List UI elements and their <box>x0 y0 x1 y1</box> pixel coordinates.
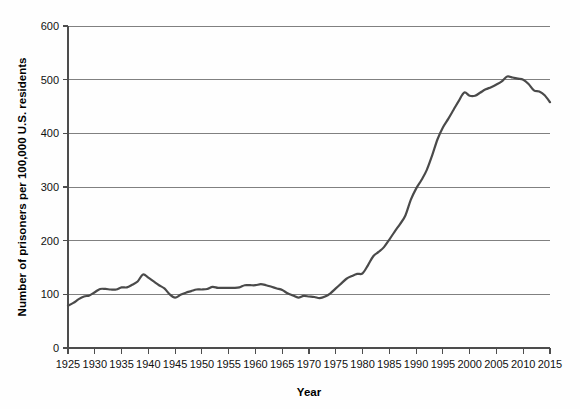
x-tick-label-1950: 1950 <box>190 358 214 370</box>
y-tick-label-200: 200 <box>41 235 59 247</box>
y-tick-label-0: 0 <box>53 342 59 354</box>
data-series-line <box>68 76 550 305</box>
x-tick-label-2015: 2015 <box>538 358 562 370</box>
x-tick-label-2000: 2000 <box>457 358 481 370</box>
x-tick-label-1960: 1960 <box>243 358 267 370</box>
gridlines <box>68 26 550 294</box>
x-tick-label-1955: 1955 <box>216 358 240 370</box>
x-tick-label-1980: 1980 <box>350 358 374 370</box>
y-tick-label-100: 100 <box>41 288 59 300</box>
x-tick-label-1995: 1995 <box>431 358 455 370</box>
x-tick-label-1970: 1970 <box>297 358 321 370</box>
line-chart: 0100200300400500600 19251930193519401945… <box>0 0 580 409</box>
x-tick-label-2005: 2005 <box>484 358 508 370</box>
y-tick-label-600: 600 <box>41 20 59 32</box>
x-tick-label-1940: 1940 <box>136 358 160 370</box>
y-axis-title: Number of prisoners per 100,000 U.S. res… <box>16 58 28 317</box>
x-tick-label-2010: 2010 <box>511 358 535 370</box>
y-tick-label-300: 300 <box>41 181 59 193</box>
chart-container: 0100200300400500600 19251930193519401945… <box>0 0 580 409</box>
y-axis-ticks: 0100200300400500600 <box>41 20 68 354</box>
y-tick-label-500: 500 <box>41 74 59 86</box>
x-tick-label-1930: 1930 <box>83 358 107 370</box>
x-tick-label-1935: 1935 <box>109 358 133 370</box>
x-axis-title: Year <box>297 386 322 398</box>
x-axis-ticks: 1925193019351940194519501955196019651970… <box>56 348 562 370</box>
x-tick-label-1925: 1925 <box>56 358 80 370</box>
x-tick-label-1975: 1975 <box>324 358 348 370</box>
x-tick-label-1985: 1985 <box>377 358 401 370</box>
x-tick-label-1965: 1965 <box>270 358 294 370</box>
x-tick-label-1990: 1990 <box>404 358 428 370</box>
x-tick-label-1945: 1945 <box>163 358 187 370</box>
y-tick-label-400: 400 <box>41 127 59 139</box>
